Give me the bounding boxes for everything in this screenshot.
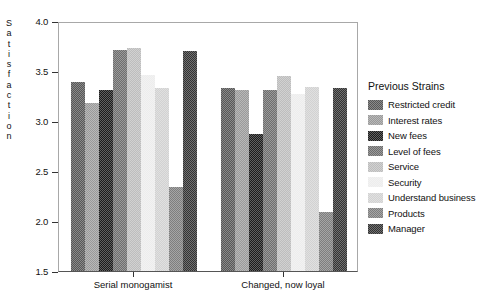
plot-area [58,22,358,272]
y-tick-label: 3.5 [22,66,48,77]
bar [113,50,127,271]
legend-items: Restricted creditInterest ratesNew feesL… [368,99,496,234]
legend-swatch [368,208,383,218]
bar-series-layer [59,23,357,271]
bar [277,76,291,271]
bar [291,94,305,271]
y-axis-title-letter: c [2,90,16,100]
legend-item[interactable]: Manager [368,223,496,234]
legend-swatch [368,131,383,141]
bar [169,187,183,271]
y-tick-label: 2.5 [22,166,48,177]
legend-label: Level of fees [388,146,441,157]
bar [333,88,347,271]
legend-label: Security [388,177,422,188]
bar [71,82,85,271]
legend-swatch [368,100,383,110]
y-axis-title-letter: o [2,121,16,131]
y-tick-label: 2.0 [22,216,48,227]
y-tick-label: 1.5 [22,266,48,277]
bar [305,87,319,271]
legend-swatch [368,177,383,187]
legend-label: Products [388,208,425,219]
legend-label: Manager [388,223,425,234]
y-axis-title-letter: i [2,49,16,59]
legend-item[interactable]: Products [368,208,496,219]
legend-item[interactable]: New fees [368,130,496,141]
y-tick-label: 4.0 [22,16,48,27]
legend-item[interactable]: Security [368,177,496,188]
legend-item[interactable]: Level of fees [368,146,496,157]
y-axis-title-letter: a [2,28,16,38]
legend-swatch [368,193,383,203]
y-axis-title-letter: f [2,69,16,79]
legend-item[interactable]: Interest rates [368,115,496,126]
legend-label: Understand business [388,192,475,203]
y-axis-title-letter: i [2,111,16,121]
x-axis-category-label: Changed, now loyal [203,279,363,290]
y-tick-mark [52,272,58,273]
bar [141,75,155,271]
legend-swatch [368,162,383,172]
y-tick-label: 3.0 [22,116,48,127]
legend-item[interactable]: Restricted credit [368,99,496,110]
legend-label: Restricted credit [388,99,455,110]
legend-swatch [368,146,383,156]
y-axis-title-letter: t [2,39,16,49]
bar [235,90,249,271]
x-tick-mark [133,272,134,277]
y-axis-title-letter: n [2,131,16,141]
legend-item[interactable]: Service [368,161,496,172]
bar [85,103,99,271]
bar [183,51,197,271]
x-axis-category-label: Serial monogamist [53,279,213,290]
x-tick-mark [283,272,284,277]
legend-label: New fees [388,130,427,141]
bar [221,88,235,271]
bar [155,88,169,271]
y-axis-title-letter: s [2,59,16,69]
legend-item[interactable]: Understand business [368,192,496,203]
legend-label: Interest rates [388,115,442,126]
y-axis-title-letter: t [2,100,16,110]
bar [249,134,263,271]
bar-chart: Satisfaction 4.03.53.02.52.01.5 Serial m… [0,0,497,298]
legend-swatch [368,224,383,234]
legend-swatch [368,115,383,125]
bar [319,212,333,271]
legend-title: Previous Strains [368,80,496,92]
bar [99,90,113,271]
y-axis-title: Satisfaction [2,18,16,142]
legend: Previous Strains Restricted creditIntere… [368,80,496,239]
y-axis-title-letter: S [2,18,16,28]
y-axis-title-letter: a [2,80,16,90]
bar [127,48,141,271]
bar [263,90,277,271]
legend-label: Service [388,161,419,172]
